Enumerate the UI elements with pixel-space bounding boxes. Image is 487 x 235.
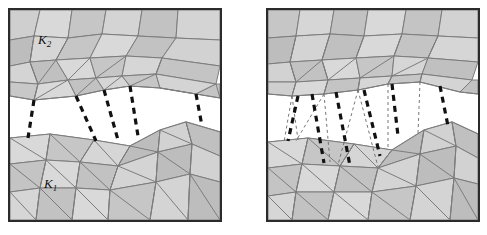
panel-left: K2 K1 — [8, 8, 222, 222]
upper-mesh-right — [268, 10, 478, 96]
connector-thin-3 — [296, 94, 324, 141]
upper-mesh-left — [10, 10, 220, 100]
connector-thick-2 — [76, 96, 96, 141]
connector-thin-8 — [418, 82, 420, 134]
connector-thick-1 — [28, 100, 34, 138]
panel-right-canvas — [268, 10, 478, 220]
connector-thick-5 — [196, 94, 202, 126]
connector-thick-r6 — [440, 86, 448, 126]
connector-thick-3 — [104, 90, 118, 140]
lower-mesh-left — [10, 122, 220, 220]
connector-thick-4 — [130, 86, 138, 136]
connector-thick-r5 — [392, 84, 398, 136]
figure-root: K2 K1 — [0, 0, 487, 235]
panel-left-canvas: K2 K1 — [10, 10, 220, 220]
lower-mesh-right — [268, 122, 478, 220]
panel-right — [266, 8, 480, 222]
connector-thin-1 — [284, 96, 292, 142]
